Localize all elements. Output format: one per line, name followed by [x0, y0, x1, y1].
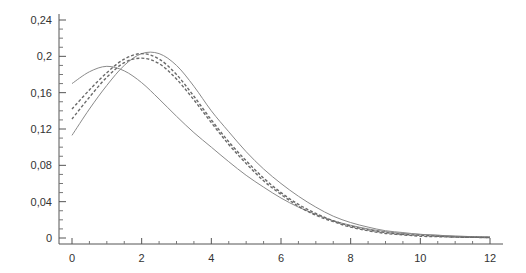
- chart: 00,040,080,120,160,20,24 024681012: [0, 0, 526, 273]
- curve-solid-2: [72, 52, 490, 237]
- x-tick-label: 4: [208, 252, 214, 264]
- x-tick-label: 6: [278, 252, 284, 264]
- x-tick-label: 8: [348, 252, 354, 264]
- curve-dashed-2: [72, 58, 490, 237]
- y-tick-label: 0,16: [31, 87, 52, 99]
- plot-curves: [72, 52, 490, 237]
- x-tick-label: 10: [414, 252, 426, 264]
- x-tick-label: 2: [139, 252, 145, 264]
- x-axis-ticks: 024681012: [69, 238, 496, 264]
- y-tick-label: 0,24: [31, 14, 52, 26]
- y-tick-label: 0,12: [31, 123, 52, 135]
- x-tick-label: 12: [484, 252, 496, 264]
- y-tick-label: 0,2: [37, 50, 52, 62]
- y-tick-label: 0,04: [31, 196, 52, 208]
- y-tick-label: 0,08: [31, 159, 52, 171]
- y-tick-label: 0: [46, 232, 52, 244]
- x-tick-label: 0: [69, 252, 75, 264]
- axes: 00,040,080,120,160,20,24 024681012: [31, 14, 503, 264]
- curve-dashed-1: [72, 54, 490, 238]
- curve-solid-1: [72, 66, 490, 237]
- y-axis-ticks: 00,040,080,120,160,20,24: [31, 14, 66, 244]
